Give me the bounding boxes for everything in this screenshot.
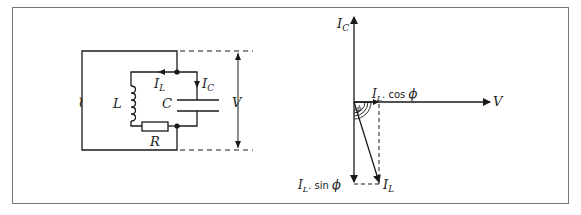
- ic-label: IC: [201, 76, 214, 93]
- ic-phasor-label: IC: [336, 16, 349, 33]
- il-label: IL: [153, 76, 165, 93]
- capacitor-label: C: [162, 96, 172, 111]
- il-arrow-icon: [158, 69, 165, 75]
- voltage-arrow-down-icon: [235, 141, 241, 148]
- circuit-labels: ~ L C R V IL IC: [72, 76, 243, 149]
- capacitor-top-wire: [177, 72, 197, 100]
- ac-source-symbol: ~: [72, 96, 90, 109]
- junction-top: [174, 69, 179, 74]
- voltage-label: V: [232, 95, 243, 110]
- inductor-bottom-wire: [131, 121, 142, 126]
- inductor-label: L: [112, 96, 122, 111]
- v-phasor-label: V: [493, 94, 504, 109]
- ic-arrow-icon: [194, 81, 200, 88]
- inductor-coil: [131, 86, 136, 121]
- voltage-arrow-up-icon: [235, 53, 241, 60]
- il-phasor-label: IL: [382, 177, 394, 194]
- resistor: [142, 122, 168, 131]
- il-cos-label: IL. cos ϕ: [371, 86, 417, 103]
- il-sin-label: IL. sin ϕ: [297, 177, 341, 194]
- junction-bottom: [174, 123, 179, 128]
- phasor-labels: IC V IL IL. cos ϕ IL. sin ϕ ϕ: [297, 16, 504, 194]
- capacitor-bottom-wire: [177, 111, 197, 126]
- phi-angle-label: ϕ: [356, 104, 362, 113]
- figure-canvas: ~ L C R V IL IC IC V: [0, 0, 581, 215]
- resistor-label: R: [149, 134, 160, 149]
